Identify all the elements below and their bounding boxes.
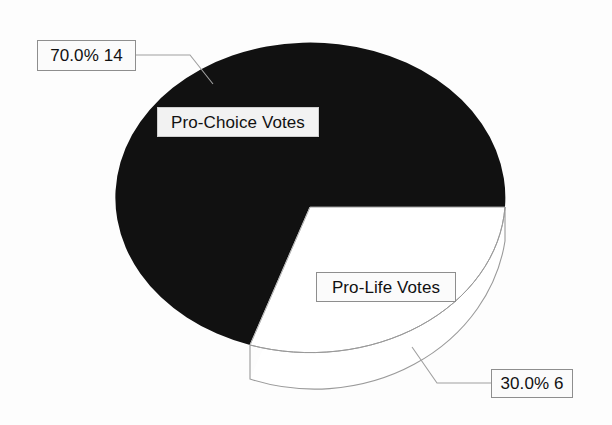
data-label-pro-life-name: Pro-Life Votes xyxy=(316,272,456,302)
pie-chart: 70.0% 14 Pro-Choice Votes Pro-Life Votes… xyxy=(0,0,612,425)
data-label-pro-choice-name: Pro-Choice Votes xyxy=(157,107,319,137)
data-label-pro-choice-percent: 70.0% 14 xyxy=(37,40,136,71)
data-label-pro-life-percent: 30.0% 6 xyxy=(491,369,573,398)
